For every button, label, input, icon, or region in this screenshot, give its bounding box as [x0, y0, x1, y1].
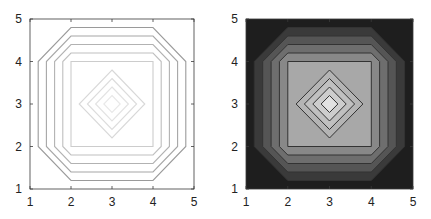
x-tick-label: 2 [284, 195, 291, 209]
x-tick-label: 5 [191, 195, 198, 209]
y-tick-label: 1 [231, 182, 238, 196]
x-tick-label: 3 [109, 195, 116, 209]
contour-level-diamond [96, 87, 129, 121]
x-tick-label: 1 [27, 195, 34, 209]
x-tick-label: 4 [150, 195, 157, 209]
contour-level-diamond [104, 96, 120, 113]
figure: 1234512345 1234512345 [0, 0, 431, 219]
contour-level [38, 28, 186, 181]
contour-level-diamond [87, 79, 136, 130]
x-tick-label: 1 [243, 195, 250, 209]
y-tick-label: 2 [15, 140, 22, 154]
contour-level [63, 53, 161, 155]
y-tick-label: 3 [231, 97, 238, 111]
contour-level [46, 36, 177, 172]
y-tick-label: 5 [231, 12, 238, 26]
y-tick-label: 3 [15, 97, 22, 111]
contour-level [71, 62, 153, 147]
y-tick-label: 4 [15, 55, 22, 69]
x-tick-label: 2 [68, 195, 75, 209]
y-tick-label: 5 [15, 12, 22, 26]
x-tick-label: 3 [326, 195, 333, 209]
contour-level-diamond [79, 70, 145, 138]
contour-level [55, 45, 170, 164]
contour-plot-filled: 1234512345 [231, 12, 416, 209]
y-tick-label: 4 [231, 55, 238, 69]
y-tick-label: 2 [231, 140, 238, 154]
y-tick-label: 1 [15, 182, 22, 196]
x-tick-label: 5 [410, 195, 417, 209]
contour-plot-lines: 1234512345 [15, 12, 197, 209]
x-tick-label: 4 [368, 195, 375, 209]
